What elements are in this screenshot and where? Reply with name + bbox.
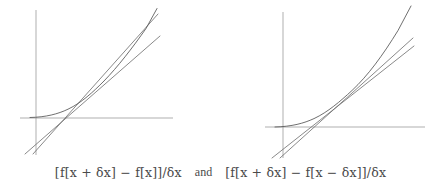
caption-conjunction: and (182, 165, 225, 180)
left-formula: [f[x + δx] − f[x]]/δx (55, 165, 182, 180)
forward-difference-plot (0, 0, 200, 160)
function-curve (275, 6, 411, 127)
forward-difference-secant (25, 36, 160, 154)
forward-difference-svg (0, 0, 200, 160)
central-difference-svg (240, 0, 441, 160)
right-formula: [f[x + δx] − f[x − δx]]/δx (225, 165, 386, 180)
function-curve (30, 9, 157, 118)
finite-difference-figure: [f[x + δx] − f[x]]/δx and [f[x + δx] − f… (0, 0, 441, 188)
tangent-line (33, 14, 158, 154)
central-difference-plot (240, 0, 441, 160)
tangent-line (280, 38, 413, 158)
caption: [f[x + δx] − f[x]]/δx and [f[x + δx] − f… (0, 156, 441, 188)
central-difference-secant (272, 46, 414, 158)
